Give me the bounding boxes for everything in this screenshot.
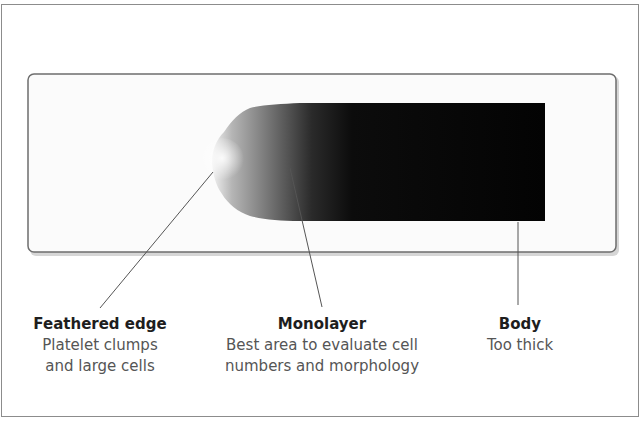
feathered-edge-desc-line1: Platelet clumps bbox=[20, 335, 180, 356]
feathered-edge-desc-line2: and large cells bbox=[20, 356, 180, 377]
body-title: Body bbox=[460, 314, 580, 335]
monolayer-desc-line2: numbers and morphology bbox=[200, 356, 444, 377]
body-desc-line1: Too thick bbox=[460, 335, 580, 356]
feathered-edge-label: Feathered edge Platelet clumps and large… bbox=[20, 314, 180, 377]
feathered-edge-highlight bbox=[200, 138, 244, 182]
monolayer-desc-line1: Best area to evaluate cell bbox=[200, 335, 444, 356]
blood-smear bbox=[212, 103, 545, 221]
monolayer-label: Monolayer Best area to evaluate cell num… bbox=[200, 314, 444, 377]
monolayer-title: Monolayer bbox=[200, 314, 444, 335]
feathered-edge-title: Feathered edge bbox=[20, 314, 180, 335]
body-label: Body Too thick bbox=[460, 314, 580, 356]
